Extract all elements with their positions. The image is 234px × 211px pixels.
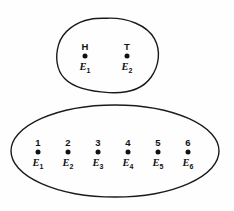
point-3: 3 E3 — [92, 137, 104, 170]
point-2-top-label: 2 — [65, 137, 70, 148]
diagram-canvas: H E1 T E2 1 E1 2 E2 — [0, 0, 234, 211]
point-6: 6 E6 — [182, 137, 194, 170]
point-3-dot — [96, 150, 101, 155]
point-4-top-label: 4 — [125, 137, 131, 148]
point-2-event-label: E2 — [62, 157, 74, 170]
point-t-dot — [125, 54, 130, 59]
point-t-top-label: T — [124, 41, 130, 52]
set-coin-toss: H E1 T E2 — [57, 18, 159, 93]
point-1: 1 E1 — [32, 137, 44, 170]
point-1-event-label: E1 — [32, 157, 44, 170]
point-1-dot — [36, 150, 41, 155]
point-5: 5 E5 — [152, 137, 164, 170]
point-4-dot — [126, 150, 131, 155]
point-5-top-label: 5 — [155, 137, 161, 148]
point-2-dot — [66, 150, 71, 155]
point-6-dot — [186, 150, 191, 155]
point-5-dot — [156, 150, 161, 155]
point-h: H E1 — [79, 41, 91, 74]
point-h-dot — [83, 54, 88, 59]
point-5-event-label: E5 — [152, 157, 164, 170]
point-t: T E2 — [121, 41, 133, 74]
set-coin-toss-outline — [57, 18, 159, 93]
point-4-event-label: E4 — [122, 157, 134, 170]
point-t-event-label: E2 — [121, 61, 133, 74]
sample-space-diagram: H E1 T E2 1 E1 2 E2 — [0, 0, 234, 211]
point-h-event-label: E1 — [79, 61, 91, 74]
point-3-top-label: 3 — [95, 137, 100, 148]
point-h-top-label: H — [82, 41, 89, 52]
set-die-roll: 1 E1 2 E2 3 E3 4 E4 5 E — [11, 105, 219, 197]
point-6-event-label: E6 — [182, 157, 194, 170]
point-3-event-label: E3 — [92, 157, 104, 170]
point-6-top-label: 6 — [185, 137, 190, 148]
point-2: 2 E2 — [62, 137, 74, 170]
point-4: 4 E4 — [122, 137, 134, 170]
point-1-top-label: 1 — [35, 137, 41, 148]
